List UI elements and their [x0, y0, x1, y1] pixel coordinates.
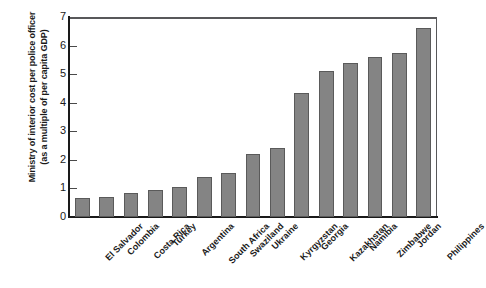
y-tick-label-7: 7 [46, 11, 66, 22]
bar-argentina [172, 187, 187, 217]
bar-ukraine [246, 154, 261, 217]
bar-jordan [392, 53, 407, 217]
bars-group [70, 17, 436, 217]
bar-turkey [148, 190, 163, 217]
bar-colombia [99, 197, 114, 217]
y-tick-label-4: 4 [46, 97, 66, 108]
bar-kyrgyzstan [270, 148, 285, 217]
bar-slot [94, 17, 118, 217]
bar-slot [168, 17, 192, 217]
bar-slot [265, 17, 289, 217]
bar-slot [290, 17, 314, 217]
y-tick-label-1: 1 [46, 182, 66, 193]
x-label-argentina: Argentina [199, 221, 236, 258]
bar-kazakhstan [319, 71, 334, 217]
bar-slot [143, 17, 167, 217]
bar-slot [119, 17, 143, 217]
bar-slot [363, 17, 387, 217]
y-tick-label-6: 6 [46, 40, 66, 51]
bar-slot [412, 17, 436, 217]
x-label-philippines: Philippines [445, 221, 486, 262]
bar-south-africa [197, 177, 212, 217]
y-tick-label-5: 5 [46, 68, 66, 79]
bar-slot [314, 17, 338, 217]
bar-costa-rica [124, 193, 139, 217]
bar-namibia [343, 63, 358, 217]
bar-slot [241, 17, 265, 217]
bar-slot [70, 17, 94, 217]
y-axis-title: Ministry of interior cost per police off… [0, 0, 40, 226]
bar-el-salvador [75, 198, 90, 217]
bar-swaziland [221, 173, 236, 217]
bar-slot [338, 17, 362, 217]
x-axis-category-labels: El SalvadorColombiaCosta RicaTurkeyArgen… [0, 218, 448, 288]
y-axis-title-line-1: Ministry of interior cost per police off… [27, 12, 37, 183]
y-tick-label-3: 3 [46, 125, 66, 136]
bar-zimbabwe [368, 57, 383, 217]
bar-georgia [294, 93, 309, 217]
bar-slot [192, 17, 216, 217]
bar-slot [216, 17, 240, 217]
bar-philippines [416, 28, 431, 217]
bar-slot [387, 17, 411, 217]
y-tick-label-2: 2 [46, 154, 66, 165]
